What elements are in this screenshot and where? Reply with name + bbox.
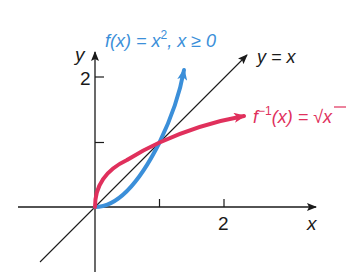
f-inverse-curve [95,116,244,207]
y-tick-label-2: 2 [80,68,91,89]
f-label: f(x) = x2, x ≥ 0 [105,28,216,51]
function-inverse-diagram: y x 2 2 f(x) = x2, x ≥ 0 y = x f−1(x) = … [0,0,360,276]
x-axis-label: x [306,213,318,234]
identity-line [40,55,247,262]
identity-label: y = x [255,47,297,67]
x-tick-label-2: 2 [218,213,229,234]
f-inverse-label: f−1(x) = √x [253,104,333,127]
y-axis-label: y [73,44,86,65]
